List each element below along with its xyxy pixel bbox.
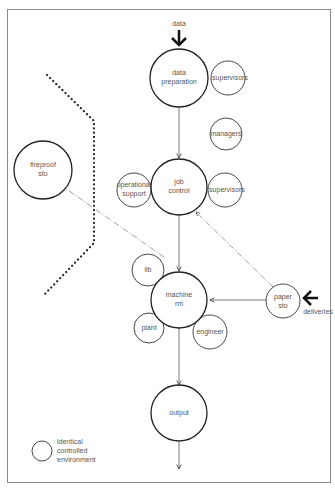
- node-data-preparation: data preparation: [150, 49, 208, 107]
- deliveries-label: deliveries: [303, 308, 333, 315]
- node-job-control: job control: [151, 159, 207, 215]
- svg-text:control: control: [168, 187, 189, 194]
- svg-text:supervisors: supervisors: [209, 186, 245, 194]
- transfer-paper-to-jobcontrol: [196, 212, 273, 287]
- svg-text:supervisors: supervisors: [212, 74, 248, 82]
- node-machine-rm: machine rm: [151, 272, 207, 328]
- svg-text:preparation: preparation: [161, 78, 197, 86]
- svg-text:managers: managers: [210, 130, 242, 138]
- svg-text:lib: lib: [144, 266, 151, 273]
- node-output: output: [151, 385, 207, 441]
- node-supervisors-1: supervisors: [211, 61, 248, 95]
- svg-text:output: output: [169, 409, 189, 417]
- node-operational-support: operational support: [117, 173, 152, 207]
- svg-text:paper: paper: [274, 293, 293, 301]
- node-fireproof-sto: fireproof sto: [14, 141, 72, 199]
- flow-diagram: data deliveries supervisors managers ope…: [0, 0, 335, 489]
- svg-text:machine: machine: [166, 291, 193, 298]
- svg-text:environment: environment: [57, 456, 96, 463]
- svg-text:job: job: [173, 178, 183, 186]
- legend-circle-icon: [32, 441, 52, 461]
- node-supervisors-2: supervisors: [208, 173, 245, 207]
- svg-text:engineer: engineer: [196, 328, 224, 336]
- svg-text:data: data: [172, 69, 186, 76]
- node-managers: managers: [210, 118, 242, 150]
- svg-text:sto: sto: [278, 302, 287, 309]
- svg-text:rm: rm: [175, 300, 183, 307]
- legend: identical controlled environment: [32, 438, 96, 463]
- data-input-label: data: [172, 20, 186, 27]
- deliveries-input-arrow: deliveries: [303, 291, 333, 315]
- svg-text:sto: sto: [38, 170, 47, 177]
- svg-text:operational: operational: [117, 181, 152, 189]
- node-paper-sto: paper sto: [266, 284, 300, 318]
- svg-text:fireproof: fireproof: [30, 161, 56, 169]
- svg-text:support: support: [122, 190, 145, 198]
- svg-text:identical: identical: [57, 438, 83, 445]
- svg-text:controlled: controlled: [57, 447, 87, 454]
- data-input-arrow: data: [172, 20, 186, 45]
- svg-text:plant: plant: [141, 324, 156, 332]
